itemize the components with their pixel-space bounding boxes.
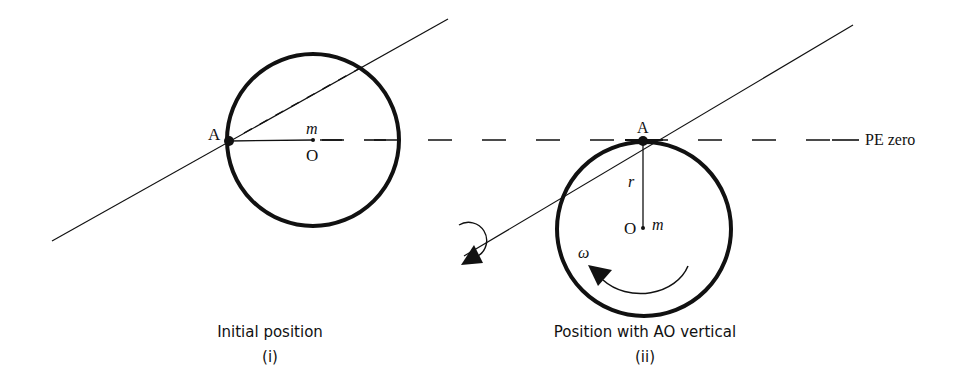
omega-arc <box>603 266 688 294</box>
diagram-canvas: PE zero A m O A r O m ω <box>0 0 978 389</box>
pivot-point-A-ii <box>638 136 648 146</box>
label-O-i: O <box>306 146 318 165</box>
pivot-point-A-i <box>224 136 234 146</box>
label-A-i: A <box>208 125 221 144</box>
caption-text-i: Initial position <box>200 320 340 345</box>
caption-label-i: (i) <box>200 345 340 370</box>
label-omega-ii: ω <box>578 244 589 261</box>
panel-initial-position: A m O <box>52 19 448 241</box>
pe-zero-label: PE zero <box>865 131 915 148</box>
label-O-ii: O <box>624 219 636 238</box>
panel-ao-vertical: A r O m ω <box>459 25 853 316</box>
caption-panel-ii: Position with AO vertical (ii) <box>535 320 755 370</box>
label-m-ii: m <box>652 216 664 233</box>
center-dot-O-ii <box>641 226 645 230</box>
caption-panel-i: Initial position (i) <box>200 320 340 370</box>
radius-AO-i <box>229 140 313 141</box>
label-m-i: m <box>306 120 318 137</box>
caption-label-ii: (ii) <box>535 345 755 370</box>
label-r-ii: r <box>628 173 635 190</box>
omega-arrowhead-icon <box>588 265 612 286</box>
label-A-ii: A <box>637 119 649 136</box>
center-dot-O-i <box>311 138 315 142</box>
caption-text-ii: Position with AO vertical <box>535 320 755 345</box>
